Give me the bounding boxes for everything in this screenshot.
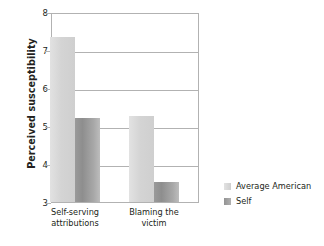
legend-item-self: Self	[224, 196, 311, 206]
legend-label-self: Self	[236, 197, 251, 206]
bar-chart: Perceived susceptibility 876543 Self-ser…	[0, 0, 324, 246]
legend-swatch-icon-self	[224, 198, 231, 205]
bar	[50, 37, 75, 202]
plot-area	[51, 13, 199, 203]
legend-swatch-icon-average-american	[224, 183, 231, 190]
bar	[129, 116, 154, 202]
bar	[154, 182, 179, 202]
bar	[75, 118, 100, 202]
legend: Average American Self	[224, 181, 311, 211]
legend-label-average-american: Average American	[236, 182, 311, 191]
legend-item-average-american: Average American	[224, 181, 311, 191]
x-axis-category-label: Blaming thevictim	[108, 207, 200, 229]
y-axis-tick-mark	[45, 203, 51, 204]
